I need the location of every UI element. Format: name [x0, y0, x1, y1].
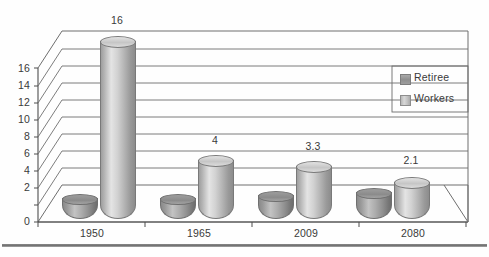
ytick-label-8: 8	[8, 130, 30, 142]
ytick-label-16: 16	[8, 62, 30, 74]
bar-body	[296, 166, 332, 219]
ytick-label-12: 12	[8, 96, 30, 108]
bar-cap	[258, 191, 294, 202]
xtick-label-2080: 2080	[383, 227, 443, 239]
ytick-label-4: 4	[8, 164, 30, 176]
legend-swatch-workers	[400, 95, 411, 106]
bar-cap	[62, 194, 98, 205]
value-label-1965: 4	[195, 134, 235, 146]
xtick-label-1950: 1950	[62, 227, 122, 239]
bar-cap	[100, 36, 136, 48]
value-label-2009: 3.3	[293, 140, 333, 152]
ytick-label-14: 14	[8, 79, 30, 91]
ytick-label-6: 6	[8, 147, 30, 159]
bar-retiree-1950	[62, 198, 96, 218]
xtick-label-1965: 1965	[169, 227, 229, 239]
bar-workers-1965	[198, 160, 232, 218]
value-label-2080: 2.1	[391, 154, 431, 166]
chart-canvas: 16 14 12 10 8 6 4 2 0 16 4 3.3	[0, 0, 489, 257]
legend-label-retiree: Retiree	[414, 71, 449, 83]
legend-swatch-retiree	[400, 74, 411, 85]
ytick-label-0: 0	[8, 215, 30, 227]
bar-retiree-2080	[356, 192, 390, 218]
ytick-label-10: 10	[8, 113, 30, 125]
bar-retiree-1965	[160, 198, 194, 218]
bar-retiree-2009	[258, 195, 292, 218]
bar-workers-1950	[100, 41, 134, 218]
bar-cap	[160, 194, 196, 205]
bar-cap	[356, 188, 392, 199]
bottom-divider-rule	[2, 244, 487, 247]
bar-workers-2009	[296, 166, 330, 218]
value-label-1950: 16	[97, 14, 137, 26]
bar-cap	[198, 155, 234, 167]
ytick-label-2: 2	[8, 181, 30, 193]
bar-body	[198, 160, 234, 219]
xtick-label-2009: 2009	[276, 227, 336, 239]
bar-cap	[394, 177, 430, 189]
bar-workers-2080	[394, 182, 428, 218]
legend-label-workers: Workers	[414, 92, 454, 104]
bar-body	[100, 41, 136, 219]
bar-cap	[296, 161, 332, 173]
